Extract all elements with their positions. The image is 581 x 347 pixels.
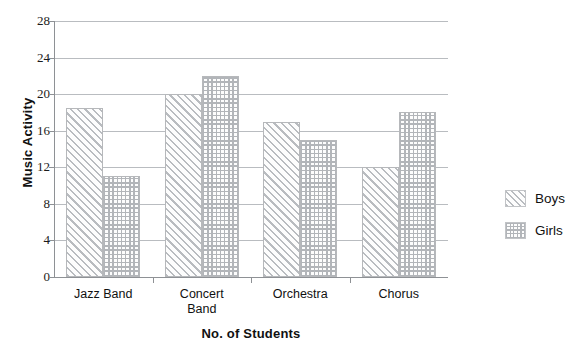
bars-layer [54, 21, 448, 277]
bar-girls-chorus [399, 112, 436, 277]
legend-item-girls[interactable]: Girls [505, 218, 581, 242]
bar-girls-jazz-band [103, 176, 140, 277]
x-axis-tick-labels: Jazz BandConcert BandOrchestraChorus [54, 287, 448, 327]
legend-label: Girls [535, 223, 563, 238]
bar-boys-concert-band [165, 94, 202, 277]
x-tick-mark [153, 277, 154, 283]
legend-label: Boys [535, 191, 565, 206]
x-tick-label: Jazz Band [60, 287, 146, 302]
legend-item-boys[interactable]: Boys [505, 186, 581, 210]
cropped-title-remnant [250, 0, 370, 4]
x-tick-mark [251, 277, 252, 283]
x-tick-label: Orchestra [257, 287, 343, 302]
bar-boys-jazz-band [66, 108, 103, 277]
crosshatch-icon [505, 222, 526, 239]
bar-girls-orchestra [300, 140, 337, 277]
legend: BoysGirls [505, 186, 581, 250]
bar-boys-orchestra [263, 122, 300, 277]
x-tick-mark [350, 277, 351, 283]
x-tick-label: Chorus [356, 287, 442, 302]
diagonal-hatch-icon [505, 190, 526, 207]
plot-area [54, 21, 448, 277]
x-axis-title: No. of Students [54, 326, 448, 341]
bar-girls-concert-band [202, 76, 239, 277]
bar-boys-chorus [362, 167, 399, 277]
bar-chart: Music Activity 0481216202428 Jazz BandCo… [0, 0, 581, 347]
y-axis-tick-labels: 0481216202428 [26, 21, 50, 277]
x-tick-label: Concert Band [159, 287, 245, 317]
